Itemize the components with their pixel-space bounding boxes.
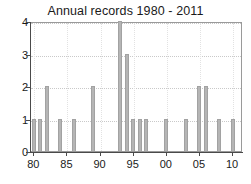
x-axis-line [29,152,243,153]
y-tick-label: 4 [2,16,28,28]
y-axis-line [30,22,31,153]
bar [72,119,76,152]
x-tick-mark [199,152,200,156]
x-tick-label: 10 [220,158,244,170]
x-tick-label: 00 [154,158,178,170]
chart-title: Annual records 1980 - 2011 [0,4,251,18]
bar [197,86,201,151]
bar [131,119,135,152]
y-tick-label: 3 [2,49,28,61]
bar [184,119,188,152]
y-tick-label: 1 [2,114,28,126]
bars-layer [31,23,241,151]
x-tick-label: 90 [88,158,112,170]
plot-area [30,22,242,152]
x-tick-label: 80 [21,158,45,170]
bar [231,119,235,152]
x-tick-mark [33,152,34,156]
bar [164,119,168,152]
y-tick-label: 0 [2,146,28,158]
bar [45,86,49,151]
x-tick-mark [166,152,167,156]
x-tick-mark [66,152,67,156]
y-tick-label: 2 [2,81,28,93]
x-tick-label: 05 [187,158,211,170]
x-tick-label: 95 [121,158,145,170]
bar [118,21,122,151]
bar [58,119,62,152]
bar [204,86,208,151]
bar [144,119,148,152]
bar [32,119,36,152]
bar [91,86,95,151]
x-tick-label: 85 [54,158,78,170]
x-tick-mark [133,152,134,156]
bar [125,54,129,152]
bar [217,119,221,152]
bar [138,119,142,152]
x-tick-mark [100,152,101,156]
bar [38,119,42,152]
x-tick-mark [232,152,233,156]
y-axis: 01234 [0,0,28,184]
chart-figure: Annual records 1980 - 2011 01234 8085909… [0,0,251,184]
